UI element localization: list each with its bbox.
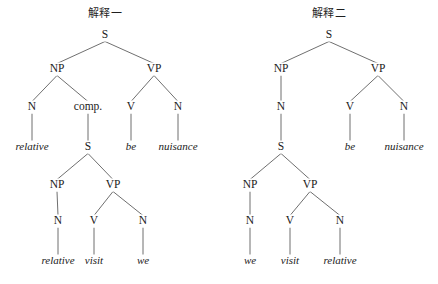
node-l-s: S bbox=[102, 28, 108, 40]
node-l-n1: N bbox=[28, 100, 37, 112]
node-l-n2: N bbox=[174, 100, 183, 112]
node-l-v1: V bbox=[127, 100, 136, 112]
node-r-vp2: VP bbox=[303, 178, 318, 190]
leaf-l-w4: relative bbox=[41, 254, 74, 266]
node-l-v2: V bbox=[90, 214, 99, 226]
node-r-np2: NP bbox=[243, 178, 258, 190]
node-r-n3: N bbox=[246, 214, 255, 226]
leaf-r-w5: visit bbox=[281, 254, 300, 266]
node-r-vp: VP bbox=[371, 62, 386, 74]
leaf-l-w1: relative bbox=[15, 140, 48, 152]
tree-canvas: 解释一SNPVPNcomp.VNrelativeSbenuisanceNPVPN… bbox=[0, 0, 438, 284]
node-r-n4: N bbox=[336, 214, 345, 226]
node-l-n4: N bbox=[139, 214, 148, 226]
node-r-v1: V bbox=[346, 100, 355, 112]
node-r-s: S bbox=[326, 28, 332, 40]
node-l-n3: N bbox=[54, 214, 63, 226]
node-l-vp2: VP bbox=[106, 178, 121, 190]
tree-left-title: 解释一 bbox=[88, 6, 123, 20]
node-r-v2: V bbox=[286, 214, 295, 226]
canvas-background bbox=[0, 0, 438, 284]
leaf-r-w2: be bbox=[345, 140, 356, 152]
node-l-s2: S bbox=[85, 140, 91, 152]
node-r-n1: N bbox=[277, 100, 286, 112]
leaf-l-w2: be bbox=[126, 140, 137, 152]
leaf-l-w6: we bbox=[137, 254, 149, 266]
leaf-r-w4: we bbox=[244, 254, 256, 266]
node-l-np: NP bbox=[50, 62, 65, 74]
node-l-np2: NP bbox=[50, 178, 65, 190]
leaf-r-w3: nuisance bbox=[384, 140, 423, 152]
node-r-np: NP bbox=[274, 62, 289, 74]
leaf-l-w3: nuisance bbox=[158, 140, 197, 152]
node-l-vp: VP bbox=[147, 62, 162, 74]
syntax-tree-diagram: 解释一SNPVPNcomp.VNrelativeSbenuisanceNPVPN… bbox=[0, 0, 438, 284]
node-l-comp: comp. bbox=[74, 100, 103, 113]
node-r-s2: S bbox=[278, 140, 284, 152]
leaf-l-w5: visit bbox=[85, 254, 104, 266]
tree-right-title: 解释二 bbox=[312, 6, 347, 20]
node-r-n2: N bbox=[400, 100, 409, 112]
leaf-r-w6: relative bbox=[323, 254, 356, 266]
